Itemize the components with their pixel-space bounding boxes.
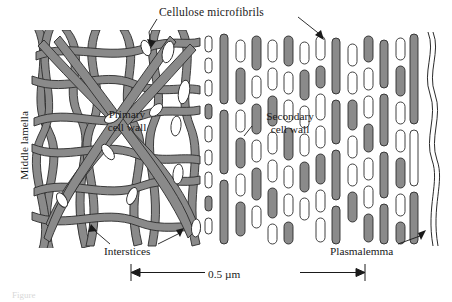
primary-wall-mesh [32,28,201,252]
label-primary-cell-wall: Primary cell wall [96,108,158,133]
label-primary-line1: Primary [109,108,145,120]
label-cellulose-microfibrils: Cellulose microfibrils [159,6,264,19]
plasmalemma-membrane [427,32,439,246]
label-middle-lamella: Middle lamella [18,85,31,205]
label-primary-line2: cell wall [108,121,147,133]
scale-bar [131,264,365,281]
caption-fragment: Figure [12,290,36,300]
cell-wall-diagram: Cellulose microfibrils Middle lamella Pr… [0,0,452,302]
label-secondary-line2: cell wall [271,123,310,135]
secondary-wall-fibrils [205,34,418,244]
label-secondary-line1: Secondary [266,110,314,122]
scale-bar-label: 0.5 µm [208,268,240,281]
label-secondary-cell-wall: Secondary cell wall [252,110,328,135]
label-plasmalemma: Plasmalemma [330,245,393,258]
label-interstices: Interstices [104,245,150,258]
